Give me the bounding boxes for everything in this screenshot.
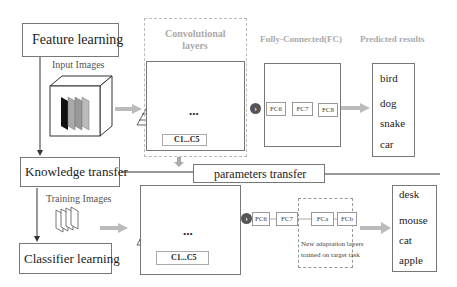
transfer-learning-diagram: Feature learning Input Images Knowledge … [0, 0, 457, 287]
fc8-top: FC8 [318, 103, 338, 117]
classifier-learning-label: Classifier learning [24, 251, 120, 267]
fca: FCa [311, 212, 334, 226]
knowledge-transfer-label: Knowledge transfer [25, 164, 128, 180]
ellipsis-bottom: ... [183, 223, 193, 239]
input-images-label: Input Images [52, 59, 105, 70]
fc6-top: FC6 [266, 102, 286, 116]
adaptation-note-1: New adaptation layers [301, 240, 353, 248]
parameters-transfer-box: parameters transfer [193, 164, 325, 183]
knowledge-transfer-box: Knowledge transfer [20, 157, 120, 187]
ellipsis-top: ... [189, 103, 199, 119]
training-images-label: Training Images [46, 193, 111, 204]
training-image-stack [56, 207, 78, 232]
conv-layers-header: Convolutional layers [165, 28, 225, 52]
adaptation-note-2: trained on target task [301, 251, 353, 259]
predicted-results-header: Predicted results [360, 34, 424, 44]
fc6-bottom: FC6 [252, 212, 270, 226]
feature-learning-box: Feature learning [22, 23, 119, 57]
parameters-transfer-label: parameters transfer [214, 167, 306, 182]
fc-header: Fully-Connected(FC) [260, 34, 342, 44]
conv-c1-c5-top: C1...C5 [162, 134, 207, 146]
classifier-learning-box: Classifier learning [19, 243, 112, 274]
conv-c1-c5-bottom: C1...C5 [156, 251, 209, 265]
feature-learning-label: Feature learning [32, 32, 123, 48]
chevron-right-icon: › [241, 213, 252, 224]
fc7-bottom: FC7 [276, 212, 298, 226]
top-results-box: bird dog snake car [372, 63, 415, 157]
chevron-right-icon: › [250, 103, 261, 114]
bottom-results-box: desk mouse cat apple [392, 185, 437, 272]
fc7-top: FC7 [292, 102, 313, 116]
fcb: FCb [337, 212, 357, 226]
input-image-cube [50, 76, 112, 136]
